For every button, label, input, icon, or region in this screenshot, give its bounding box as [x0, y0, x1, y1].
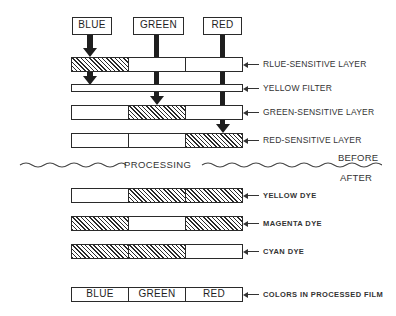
layer-segment-exposed: [72, 58, 128, 71]
processing-label: PROCESSING: [124, 159, 191, 170]
dye-segment-filled: [72, 245, 128, 258]
blue-light-box: BLUE: [72, 17, 112, 35]
before-label: BEFORE: [338, 152, 378, 163]
layer-segment-exposed: [128, 106, 185, 119]
cyan-dye-layer: [71, 244, 243, 259]
green-sensitive-layer-label: GREEN-SENSITIVE LAYER: [263, 107, 374, 117]
after-label: AFTER: [340, 172, 372, 183]
layer-segment: [72, 134, 128, 147]
blue-arrow-stem: [87, 35, 93, 49]
processing-wavy-line: [18, 158, 382, 172]
layer-segment-exposed: [185, 134, 242, 147]
green-light-box: GREEN: [133, 17, 184, 35]
result-cell-red: RED: [185, 288, 242, 301]
yellow-dye-label: YELLOW DYE: [263, 191, 317, 200]
red-sensitive-layer-label: RED-SENSITIVE LAYER: [263, 135, 362, 145]
magenta-dye-layer: [71, 216, 243, 231]
pointer-arrow-icon: [247, 88, 259, 89]
yellow-dye-layer: [71, 188, 243, 203]
magenta-dye-label: MAGENTA DYE: [263, 219, 322, 228]
yellow-filter-layer: [71, 84, 243, 92]
processed-film-label: COLORS IN PROCESSED FILM: [263, 290, 383, 299]
red-light-label: RED: [211, 19, 233, 30]
cyan-dye-label: CYAN DYE: [263, 247, 304, 256]
result-cell-blue: BLUE: [72, 288, 128, 301]
dye-segment-filled: [185, 189, 242, 202]
dye-segment-filled: [128, 245, 185, 258]
pointer-arrow-icon: [247, 140, 259, 141]
pointer-arrow-icon: [247, 223, 259, 224]
dye-segment-filled: [128, 189, 185, 202]
dye-segment: [128, 217, 185, 230]
pointer-arrow-icon: [247, 64, 259, 65]
yellow-filter-label: YELLOW FILTER: [263, 83, 332, 93]
pointer-arrow-icon: [247, 195, 259, 196]
dye-segment-filled: [72, 217, 128, 230]
pointer-arrow-icon: [247, 294, 259, 295]
dye-segment: [72, 189, 128, 202]
result-cell-green: GREEN: [128, 288, 185, 301]
layer-segment: [128, 58, 185, 71]
red-arrow-head-icon: [216, 124, 230, 133]
green-sensitive-layer: [71, 105, 243, 120]
layer-segment: [185, 58, 242, 71]
dye-segment-filled: [185, 217, 242, 230]
blue-sensitive-layer: [71, 57, 243, 72]
blue-arrow-head-icon: [83, 48, 97, 57]
layer-segment: [72, 106, 128, 119]
layer-segment: [128, 134, 185, 147]
red-light-box: RED: [203, 17, 242, 35]
green-light-label: GREEN: [140, 19, 177, 30]
layer-segment: [185, 106, 242, 119]
pointer-arrow-icon: [247, 112, 259, 113]
blue-sensitive-layer-label: RLUE-SENSITIVE LAYER: [263, 59, 367, 69]
processed-film-colors: BLUE GREEN RED: [71, 287, 243, 302]
red-sensitive-layer: [71, 133, 243, 148]
green-arrow-head-icon: [150, 96, 164, 105]
blue-light-label: BLUE: [78, 19, 105, 30]
pointer-arrow-icon: [247, 251, 259, 252]
dye-segment: [185, 245, 242, 258]
